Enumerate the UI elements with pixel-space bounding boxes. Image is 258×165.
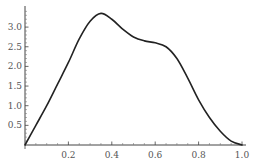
- x-tick-label: 1.0: [235, 150, 250, 160]
- x-tick-label: 0.6: [148, 150, 163, 160]
- x-tick-label: 0.2: [61, 150, 75, 160]
- x-tick-label: 0.8: [191, 150, 206, 160]
- y-tick-label: 3.0: [8, 22, 23, 32]
- y-axis: 0.51.01.52.02.53.0: [8, 6, 29, 145]
- y-tick-label: 1.0: [8, 101, 23, 111]
- line-chart: 0.51.01.52.02.53.0 0.20.40.60.81.0: [0, 0, 258, 165]
- y-tick-label: 0.5: [8, 120, 23, 130]
- y-tick-label: 2.5: [8, 42, 23, 52]
- x-axis: 0.20.40.60.81.0: [25, 142, 249, 161]
- data-curve: [25, 13, 242, 145]
- y-tick-label: 1.5: [8, 81, 23, 91]
- y-tick-label: 2.0: [8, 61, 23, 71]
- x-tick-label: 0.4: [105, 150, 120, 160]
